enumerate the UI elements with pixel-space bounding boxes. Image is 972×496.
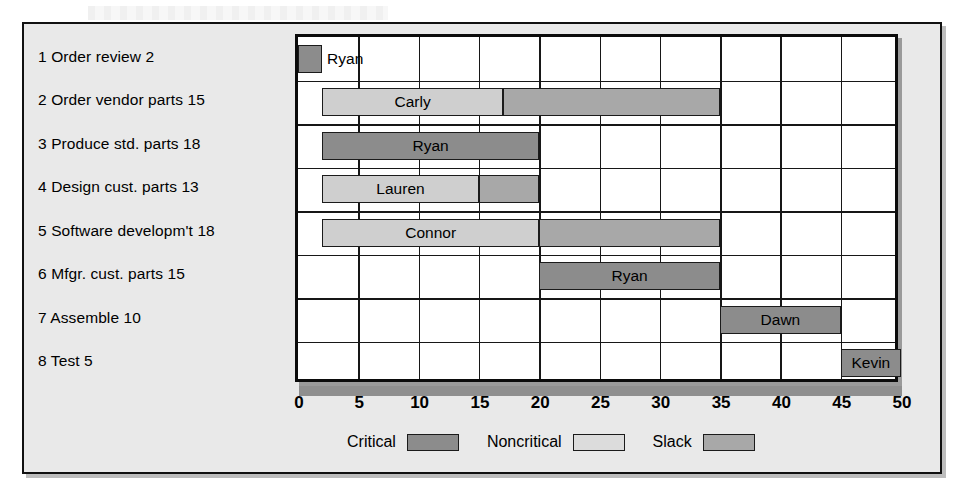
bar-resource-label: Lauren: [323, 175, 478, 203]
chart-legend: CriticalNoncriticalSlack: [347, 429, 877, 455]
legend-swatch-noncritical: [573, 434, 625, 451]
task-label: 3 Produce std. parts 18: [38, 135, 201, 153]
gantt-bar-slack[interactable]: [479, 175, 539, 203]
legend-label: Noncritical: [487, 433, 562, 451]
horizontal-gridline: [298, 342, 895, 344]
x-tick-label: 25: [591, 393, 610, 413]
bar-resource-label: Ryan: [323, 132, 538, 160]
scan-artifact: [88, 6, 388, 20]
task-label-row: 5 Software developm't 18: [38, 209, 296, 253]
x-tick-label: 0: [294, 393, 303, 413]
gantt-bar-slack[interactable]: [539, 219, 720, 247]
gantt-chart-figure: 1 Order review 22 Order vendor parts 153…: [0, 0, 972, 496]
bar-resource-label: Ryan: [327, 45, 363, 73]
gantt-bar-critical[interactable]: Ryan: [322, 132, 539, 160]
task-label-panel: 1 Order review 22 Order vendor parts 153…: [38, 35, 296, 383]
gantt-bar-noncritical[interactable]: Connor: [322, 219, 539, 247]
task-label: 5 Software developm't 18: [38, 222, 215, 240]
gantt-bar-noncritical[interactable]: Carly: [322, 88, 503, 116]
horizontal-gridline: [298, 255, 895, 257]
x-tick-label: 20: [531, 393, 550, 413]
task-label-row: 7 Assemble 10: [38, 296, 296, 340]
task-label: 7 Assemble 10: [38, 309, 141, 327]
legend-item-noncritical[interactable]: Noncritical: [487, 433, 625, 451]
vertical-gridline: [841, 37, 843, 379]
task-label-row: 6 Mfgr. cust. parts 15: [38, 253, 296, 297]
x-tick-label: 30: [651, 393, 670, 413]
task-label: 1 Order review 2: [38, 48, 154, 66]
gantt-bar-critical[interactable]: Kevin: [841, 349, 901, 377]
legend-swatch-slack: [703, 434, 755, 451]
legend-label: Slack: [653, 433, 692, 451]
gantt-bar-critical[interactable]: Ryan: [539, 262, 720, 290]
legend-item-critical[interactable]: Critical: [347, 433, 459, 451]
x-tick-label: 40: [772, 393, 791, 413]
legend-swatch-critical: [407, 434, 459, 451]
x-tick-label: 5: [355, 393, 364, 413]
legend-label: Critical: [347, 433, 396, 451]
bar-resource-label: Kevin: [842, 349, 900, 377]
horizontal-gridline: [298, 81, 895, 83]
horizontal-gridline: [298, 298, 895, 300]
task-label-row: 1 Order review 2: [38, 35, 296, 79]
task-label: 2 Order vendor parts 15: [38, 91, 205, 109]
gantt-bar-critical[interactable]: Ryan: [298, 45, 322, 73]
horizontal-gridline: [298, 168, 895, 170]
task-label: 4 Design cust. parts 13: [38, 178, 199, 196]
task-label-row: 3 Produce std. parts 18: [38, 122, 296, 166]
legend-item-slack[interactable]: Slack: [653, 433, 755, 451]
task-label: 6 Mfgr. cust. parts 15: [38, 265, 185, 283]
bar-resource-label: Carly: [323, 88, 502, 116]
gantt-bar-noncritical[interactable]: Lauren: [322, 175, 479, 203]
horizontal-gridline: [298, 124, 895, 126]
gantt-bar-slack[interactable]: [503, 88, 720, 116]
gantt-plot-area: RyanCarlyRyanLaurenConnorRyanDawnKevin: [295, 34, 898, 382]
task-label-row: 8 Test 5: [38, 340, 296, 384]
x-tick-label: 10: [410, 393, 429, 413]
x-tick-label: 15: [470, 393, 489, 413]
x-tick-label: 35: [712, 393, 731, 413]
bar-resource-label: Ryan: [540, 262, 719, 290]
task-label: 8 Test 5: [38, 352, 93, 370]
horizontal-gridline: [298, 211, 895, 213]
bar-resource-label: Dawn: [721, 306, 840, 334]
x-tick-label: 50: [893, 393, 912, 413]
bar-resource-label: Connor: [323, 219, 538, 247]
x-tick-label: 45: [832, 393, 851, 413]
task-label-row: 4 Design cust. parts 13: [38, 166, 296, 210]
gantt-bar-critical[interactable]: Dawn: [720, 306, 841, 334]
task-label-row: 2 Order vendor parts 15: [38, 79, 296, 123]
